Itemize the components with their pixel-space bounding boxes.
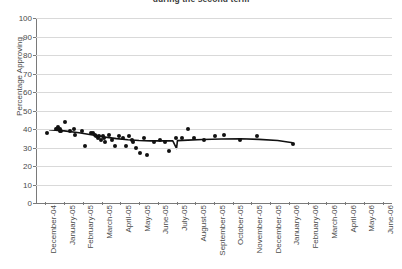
x-tick-label: June-06 bbox=[386, 205, 395, 234]
y-tick-label: 50 bbox=[23, 106, 32, 115]
grid-line bbox=[36, 111, 392, 112]
grid-line bbox=[36, 148, 392, 149]
data-point bbox=[107, 133, 111, 137]
data-point bbox=[72, 127, 76, 131]
x-tick-mark bbox=[326, 202, 327, 205]
grid-line bbox=[36, 92, 392, 93]
data-point bbox=[167, 149, 171, 153]
x-tick-mark bbox=[139, 202, 140, 205]
data-point bbox=[192, 136, 196, 140]
y-tick-mark bbox=[33, 18, 36, 19]
y-tick-mark bbox=[33, 92, 36, 93]
plot-area: 0102030405060708090100 bbox=[36, 18, 392, 203]
data-point bbox=[110, 138, 114, 142]
x-tick-label: December-04 bbox=[49, 205, 58, 253]
data-point bbox=[163, 140, 167, 144]
y-tick-label: 90 bbox=[23, 32, 32, 41]
data-point bbox=[131, 140, 135, 144]
x-tick-mark bbox=[308, 202, 309, 205]
y-tick-mark bbox=[33, 148, 36, 149]
y-tick-mark bbox=[33, 111, 36, 112]
y-tick-mark bbox=[33, 74, 36, 75]
data-point bbox=[174, 136, 178, 140]
x-tick-mark bbox=[158, 202, 159, 205]
x-tick-label: May-05 bbox=[143, 205, 152, 232]
x-axis-tick-labels: December-04January-05February-05March-05… bbox=[36, 205, 392, 269]
y-tick-mark bbox=[33, 129, 36, 130]
x-tick-mark bbox=[251, 202, 252, 205]
data-point bbox=[145, 153, 149, 157]
data-point bbox=[222, 133, 226, 137]
data-point bbox=[45, 131, 49, 135]
data-point bbox=[152, 140, 156, 144]
y-tick-label: 20 bbox=[23, 162, 32, 171]
y-tick-label: 60 bbox=[23, 88, 32, 97]
x-tick-mark bbox=[102, 202, 103, 205]
x-tick-mark bbox=[214, 202, 215, 205]
data-point bbox=[80, 129, 84, 133]
data-point bbox=[291, 142, 295, 146]
y-tick-mark bbox=[33, 203, 36, 204]
x-tick-mark bbox=[64, 202, 65, 205]
x-tick-label: September-05 bbox=[218, 205, 227, 256]
data-point bbox=[238, 138, 242, 142]
y-tick-label: 40 bbox=[23, 125, 32, 134]
grid-line bbox=[36, 18, 392, 19]
x-tick-label: November-05 bbox=[255, 205, 264, 253]
x-tick-label: January-06 bbox=[292, 205, 301, 245]
data-point bbox=[63, 120, 67, 124]
data-point bbox=[158, 138, 162, 142]
x-tick-mark bbox=[45, 202, 46, 205]
y-tick-mark bbox=[33, 185, 36, 186]
approval-scatter-chart: during the second term Percentage Approv… bbox=[0, 0, 402, 269]
grid-line bbox=[36, 74, 392, 75]
x-tick-label: April-05 bbox=[124, 205, 133, 233]
y-tick-label: 0 bbox=[28, 199, 32, 208]
data-point bbox=[113, 144, 117, 148]
y-tick-label: 80 bbox=[23, 51, 32, 60]
grid-line bbox=[36, 55, 392, 56]
x-tick-label: February-06 bbox=[311, 205, 320, 249]
x-tick-label: December-05 bbox=[274, 205, 283, 253]
data-point bbox=[73, 133, 77, 137]
x-tick-mark bbox=[177, 202, 178, 205]
chart-title: during the second term bbox=[0, 0, 402, 4]
x-tick-mark bbox=[233, 202, 234, 205]
data-point bbox=[213, 134, 217, 138]
data-point bbox=[138, 151, 142, 155]
x-tick-mark bbox=[270, 202, 271, 205]
y-tick-mark bbox=[33, 166, 36, 167]
data-point bbox=[134, 146, 138, 150]
grid-line bbox=[36, 129, 392, 130]
x-tick-label: August-05 bbox=[199, 205, 208, 241]
x-tick-label: October-05 bbox=[236, 205, 245, 245]
x-tick-mark bbox=[289, 202, 290, 205]
data-point bbox=[180, 136, 184, 140]
data-point bbox=[68, 129, 72, 133]
data-point bbox=[83, 144, 87, 148]
data-point bbox=[186, 127, 190, 131]
y-tick-label: 100 bbox=[19, 14, 32, 23]
data-point bbox=[255, 134, 259, 138]
x-tick-mark bbox=[383, 202, 384, 205]
data-point bbox=[121, 136, 125, 140]
x-tick-label: March-06 bbox=[330, 205, 339, 239]
data-point bbox=[202, 138, 206, 142]
data-point bbox=[103, 140, 107, 144]
x-tick-label: July-05 bbox=[180, 205, 189, 231]
data-point bbox=[142, 136, 146, 140]
y-tick-mark bbox=[33, 37, 36, 38]
x-tick-mark bbox=[345, 202, 346, 205]
y-tick-label: 30 bbox=[23, 143, 32, 152]
x-tick-label: February-05 bbox=[86, 205, 95, 249]
x-tick-label: June-05 bbox=[161, 205, 170, 234]
grid-line bbox=[36, 37, 392, 38]
data-point bbox=[59, 129, 63, 133]
y-tick-mark bbox=[33, 55, 36, 56]
x-tick-mark bbox=[195, 202, 196, 205]
x-tick-label: May-06 bbox=[367, 205, 376, 232]
x-tick-mark bbox=[120, 202, 121, 205]
x-tick-label: March-05 bbox=[105, 205, 114, 239]
data-point bbox=[124, 144, 128, 148]
y-tick-label: 10 bbox=[23, 180, 32, 189]
